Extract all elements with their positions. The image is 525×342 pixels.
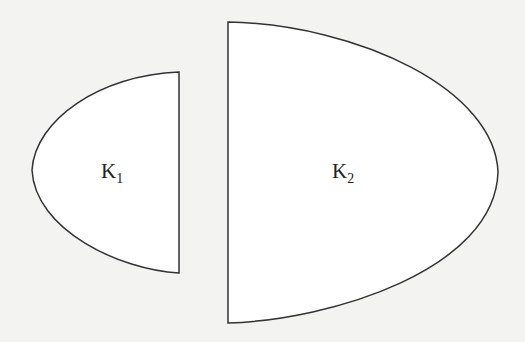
shape-k2-outline [228, 22, 498, 323]
label-k1: K1 [101, 159, 123, 187]
label-k2: K2 [332, 159, 354, 187]
diagram-canvas [0, 0, 525, 342]
